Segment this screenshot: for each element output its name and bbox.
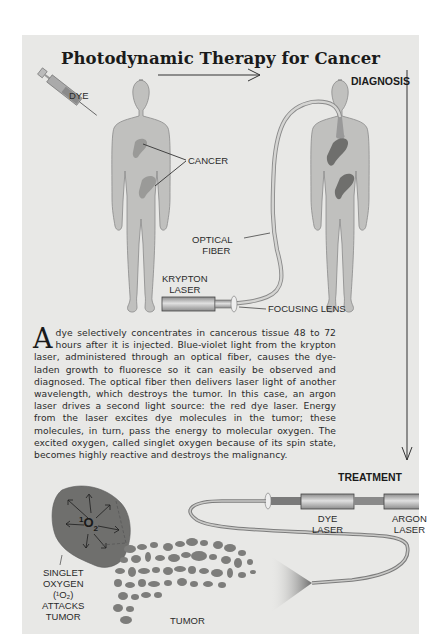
- focusing-lens-label: FOCUSING LENS: [268, 303, 346, 314]
- singlet-oxygen-label: SINGLET OXYGEN (¹O₂) ATTACKS TUMOR: [42, 567, 84, 622]
- optical-fiber-label: OPTICAL FIBER: [192, 234, 233, 256]
- optical-fiber-treatment: [190, 501, 408, 583]
- krypton-laser-device: [162, 297, 215, 311]
- dye-label: DYE: [69, 90, 89, 101]
- cancer-label: CANCER: [188, 155, 228, 166]
- dye-laser-label: DYE LASER: [312, 513, 343, 535]
- paragraph-text: dye selectively concentrates in cancerou…: [34, 327, 336, 460]
- tumor-label: TUMOR: [170, 615, 205, 626]
- treatment-heading: TREATMENT: [338, 471, 402, 483]
- light-cone: [270, 557, 312, 613]
- diagnosis-heading: DIAGNOSIS: [351, 75, 410, 87]
- tumor-cells: [113, 538, 256, 624]
- argon-laser-label: ARGON LASER: [392, 513, 427, 535]
- argon-laser-device: [384, 494, 419, 509]
- illustration-panel: Photodynamic Therapy for Cancer: [22, 35, 419, 634]
- singlet-oxygen-symbol: 1O2: [79, 515, 98, 533]
- krypton-laser-label: KRYPTON LASER: [162, 273, 208, 295]
- dropcap: A: [33, 328, 53, 350]
- description-paragraph: Adye selectively concentrates in cancero…: [34, 327, 336, 461]
- dye-laser-device: [301, 494, 354, 509]
- focusing-lens-shape: [231, 296, 237, 312]
